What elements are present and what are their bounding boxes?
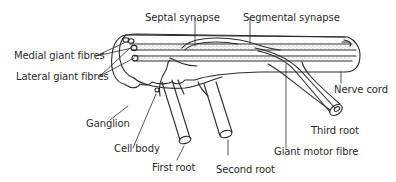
label-septal-synapse: Septal synapse bbox=[145, 12, 220, 23]
label-ganglion: Ganglion bbox=[86, 118, 130, 129]
lateral-giant-fibre bbox=[136, 57, 352, 62]
label-third-root: Third root bbox=[311, 125, 359, 136]
third-root-end bbox=[328, 102, 345, 117]
cell-body bbox=[155, 88, 159, 92]
medial-giant-fibre bbox=[133, 45, 353, 50]
second-root-end bbox=[219, 129, 232, 139]
label-medial-giant-fibres: Medial giant fibres bbox=[14, 50, 105, 61]
label-lateral-giant-fibres: Lateral giant fibres bbox=[16, 71, 109, 82]
label-giant-motor-fibre: Giant motor fibre bbox=[274, 146, 358, 157]
label-cell-body: Cell body bbox=[114, 143, 160, 154]
nerve-cord-diagram: Septal synapse Segmental synapse Medial … bbox=[0, 0, 396, 182]
label-nerve-cord: Nerve cord bbox=[334, 84, 388, 95]
label-first-root: First root bbox=[152, 162, 195, 173]
label-second-root: Second root bbox=[216, 164, 275, 175]
label-segmental-synapse: Segmental synapse bbox=[243, 12, 340, 23]
